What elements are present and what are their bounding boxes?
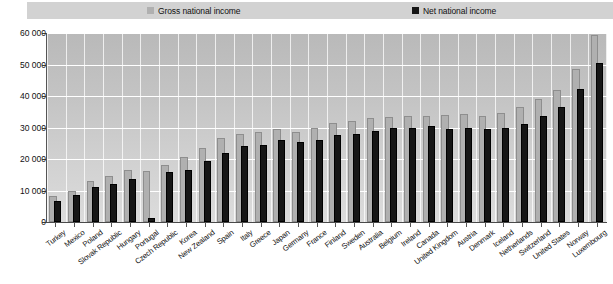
x-axis-tick-mark bbox=[223, 222, 224, 227]
bar-net-national-income bbox=[446, 129, 453, 222]
bar-net-national-income bbox=[316, 140, 323, 222]
y-axis-tick-label: 50 000 bbox=[4, 60, 46, 70]
bar-net-national-income bbox=[502, 128, 509, 222]
y-axis: 010 00020 00030 00040 00050 00060 000 bbox=[0, 0, 46, 284]
bar-group bbox=[420, 33, 439, 222]
gridline-vertical bbox=[606, 33, 607, 222]
x-axis-tick-mark bbox=[93, 222, 94, 227]
bar-group bbox=[570, 33, 589, 222]
x-axis-tick-mark bbox=[354, 222, 355, 227]
x-axis-tick-mark bbox=[167, 222, 168, 227]
bar-net-national-income bbox=[390, 128, 397, 223]
bar-net-national-income bbox=[297, 142, 304, 222]
x-axis-tick-mark bbox=[335, 222, 336, 227]
x-axis-tick-mark bbox=[578, 222, 579, 227]
bar-group bbox=[495, 33, 514, 222]
bar-group bbox=[271, 33, 290, 222]
bar-net-national-income bbox=[110, 184, 117, 222]
bar-net-national-income bbox=[222, 153, 229, 222]
bar-net-national-income bbox=[204, 161, 211, 222]
x-axis-tick-mark bbox=[186, 222, 187, 227]
y-axis-tick-label: 10 000 bbox=[4, 186, 46, 196]
bar-net-national-income bbox=[278, 140, 285, 222]
bar-group bbox=[532, 33, 551, 222]
bar-group bbox=[84, 33, 103, 222]
bar-group bbox=[308, 33, 327, 222]
legend-swatch-net bbox=[412, 7, 419, 14]
x-axis-tick-mark bbox=[205, 222, 206, 227]
bar-group bbox=[140, 33, 159, 222]
y-axis-tick-label: 30 000 bbox=[4, 123, 46, 133]
bar-net-national-income bbox=[465, 128, 472, 223]
bar-group bbox=[402, 33, 421, 222]
bar-net-national-income bbox=[353, 134, 360, 222]
x-axis-tick-mark bbox=[242, 222, 243, 227]
legend-entry-gross: Gross national income bbox=[147, 6, 240, 16]
bar-group bbox=[364, 33, 383, 222]
x-axis-tick-mark bbox=[429, 222, 430, 227]
bar-net-national-income bbox=[73, 195, 80, 222]
x-axis-tick-mark bbox=[541, 222, 542, 227]
x-axis-tick-mark bbox=[466, 222, 467, 227]
bar-net-national-income bbox=[372, 131, 379, 222]
bar-group bbox=[178, 33, 197, 222]
bar-gross-national-income bbox=[143, 171, 151, 222]
bar-group bbox=[215, 33, 234, 222]
x-axis-tick-mark bbox=[111, 222, 112, 227]
bar-group bbox=[383, 33, 402, 222]
y-axis-tick-label: 20 000 bbox=[4, 154, 46, 164]
x-axis-tick-mark bbox=[597, 222, 598, 227]
bar-group bbox=[514, 33, 533, 222]
bar-net-national-income bbox=[54, 201, 61, 222]
bar-group bbox=[327, 33, 346, 222]
bar-net-national-income bbox=[241, 146, 248, 222]
bar-group bbox=[196, 33, 215, 222]
bar-group bbox=[551, 33, 570, 222]
x-axis-tick-mark bbox=[317, 222, 318, 227]
bar-net-national-income bbox=[521, 124, 528, 222]
bar-net-national-income bbox=[428, 126, 435, 222]
x-axis-tick-mark bbox=[74, 222, 75, 227]
legend-label-net: Net national income bbox=[423, 6, 496, 16]
y-axis-tick-label: 60 000 bbox=[4, 28, 46, 38]
x-axis-tick-mark bbox=[410, 222, 411, 227]
x-axis-tick-label: Spain bbox=[215, 228, 235, 246]
bar-net-national-income bbox=[484, 129, 491, 222]
legend-entry-net: Net national income bbox=[412, 6, 496, 16]
bar-net-national-income bbox=[540, 116, 547, 222]
plot-area bbox=[46, 33, 607, 222]
bar-group bbox=[103, 33, 122, 222]
y-axis-tick-label: 40 000 bbox=[4, 91, 46, 101]
chart-legend: Gross national income Net national incom… bbox=[27, 2, 613, 19]
bar-group bbox=[234, 33, 253, 222]
bar-net-national-income bbox=[185, 170, 192, 222]
bar-net-national-income bbox=[334, 135, 341, 222]
legend-swatch-gross bbox=[147, 7, 154, 14]
bar-group bbox=[588, 33, 607, 222]
bar-group bbox=[439, 33, 458, 222]
x-axis-tick-mark bbox=[503, 222, 504, 227]
bar-net-national-income bbox=[596, 63, 603, 222]
x-axis-tick-mark bbox=[559, 222, 560, 227]
bar-group bbox=[47, 33, 66, 222]
x-axis-tick-mark bbox=[149, 222, 150, 227]
x-axis-tick-mark bbox=[55, 222, 56, 227]
x-axis-tick-mark bbox=[298, 222, 299, 227]
x-axis-tick-mark bbox=[522, 222, 523, 227]
bar-group bbox=[290, 33, 309, 222]
bar-group bbox=[159, 33, 178, 222]
x-axis-tick-label: Turkey bbox=[44, 228, 67, 248]
bar-group bbox=[346, 33, 365, 222]
x-axis-tick-mark bbox=[373, 222, 374, 227]
bar-group bbox=[66, 33, 85, 222]
x-axis-tick-mark bbox=[447, 222, 448, 227]
chart-container: Gross national income Net national incom… bbox=[0, 0, 613, 284]
bar-net-national-income bbox=[558, 107, 565, 222]
x-axis-tick-mark bbox=[261, 222, 262, 227]
x-axis-tick-mark bbox=[391, 222, 392, 227]
bar-group bbox=[458, 33, 477, 222]
x-axis-tick-mark bbox=[485, 222, 486, 227]
bar-net-national-income bbox=[577, 89, 584, 222]
bar-net-national-income bbox=[166, 172, 173, 222]
bar-group bbox=[252, 33, 271, 222]
